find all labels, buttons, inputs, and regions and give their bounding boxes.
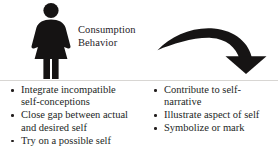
list-item: Close gap between actual and desired sel… <box>10 109 137 134</box>
list-item: Symbolize or mark <box>153 122 276 134</box>
list-item-label: Close gap between actual and desired sel… <box>21 109 137 134</box>
top-band: Consumption Behavior <box>0 0 278 80</box>
list-item-label: Try on a possible self <box>21 135 137 147</box>
bullet-dot-icon <box>11 89 14 92</box>
list-item-label: Symbolize or mark <box>164 122 276 134</box>
female-figure-silhouette-icon <box>28 1 74 79</box>
page-title-line-2: Behavior <box>78 37 156 50</box>
list-item: Integrate incompatible self-conceptions <box>10 84 137 109</box>
list-item: Contribute to self-narrative <box>153 84 276 109</box>
left-bullet-list: Integrate incompatible self-conceptions … <box>10 84 137 147</box>
right-bullet-column: Contribute to self-narrative Illustrate … <box>139 81 278 156</box>
page-title-line-1: Consumption <box>78 24 156 37</box>
bullet-dot-icon <box>154 114 157 117</box>
right-bullet-list: Contribute to self-narrative Illustrate … <box>153 84 276 135</box>
list-item-label: Illustrate aspect of self <box>164 109 276 121</box>
left-bullet-column: Integrate incompatible self-conceptions … <box>0 81 139 156</box>
bullet-dot-icon <box>11 140 14 143</box>
bullet-columns: Integrate incompatible self-conceptions … <box>0 81 278 156</box>
bullet-dot-icon <box>154 127 157 130</box>
bullet-dot-icon <box>154 89 157 92</box>
slide-canvas: Consumption Behavior Integrate incompati… <box>0 0 278 156</box>
list-item: Illustrate aspect of self <box>153 109 276 121</box>
list-item-label: Integrate incompatible self-conceptions <box>21 84 137 109</box>
curved-down-right-arrow-icon <box>155 18 275 76</box>
page-title: Consumption Behavior <box>78 24 156 49</box>
list-item-label: Contribute to self-narrative <box>164 84 276 109</box>
list-item: Try on a possible self <box>10 135 137 147</box>
bullet-dot-icon <box>11 114 14 117</box>
